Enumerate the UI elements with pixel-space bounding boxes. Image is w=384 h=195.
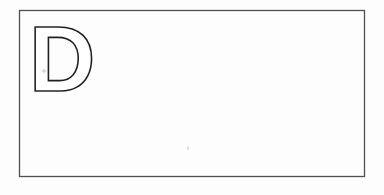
page-background: D	[0, 0, 384, 195]
flashcard-drawing: D	[0, 0, 384, 195]
letter-d-outline: D	[29, 8, 95, 110]
